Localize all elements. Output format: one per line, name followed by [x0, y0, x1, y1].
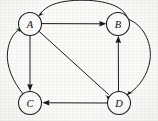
- node-b[interactable]: B: [107, 13, 130, 36]
- edge-d-to-b-arrowhead: [116, 36, 122, 43]
- edge-a-to-d: [39, 31, 112, 99]
- node-b-label: B: [115, 19, 122, 30]
- edge-d-to-c: [42, 100, 107, 106]
- edge-d-to-b: [116, 36, 122, 92]
- node-c[interactable]: C: [19, 92, 42, 115]
- edge-a-to-c-arrowhead: [27, 84, 33, 91]
- edge-b-to-d-curve: [129, 20, 151, 94]
- edge-b-to-a-arrowhead: [38, 13, 45, 17]
- node-a-label: A: [26, 19, 34, 30]
- graph-figure: A B C D: [0, 0, 158, 121]
- graph-canvas: A B C D: [0, 0, 158, 121]
- edge-a-to-d-line: [39, 31, 108, 94]
- edge-a-to-c: [27, 36, 33, 92]
- edge-d-to-c-arrowhead: [42, 100, 49, 106]
- node-c-label: C: [26, 98, 34, 109]
- edge-c-to-a: [7, 28, 23, 94]
- edge-b-to-d: [126, 20, 150, 96]
- edge-c-to-a-curve: [7, 30, 23, 94]
- node-a[interactable]: A: [19, 13, 42, 36]
- edge-a-to-b: [42, 21, 107, 27]
- node-d[interactable]: D: [108, 92, 131, 115]
- node-d-label: D: [114, 98, 123, 109]
- edge-a-to-b-arrowhead: [99, 21, 106, 27]
